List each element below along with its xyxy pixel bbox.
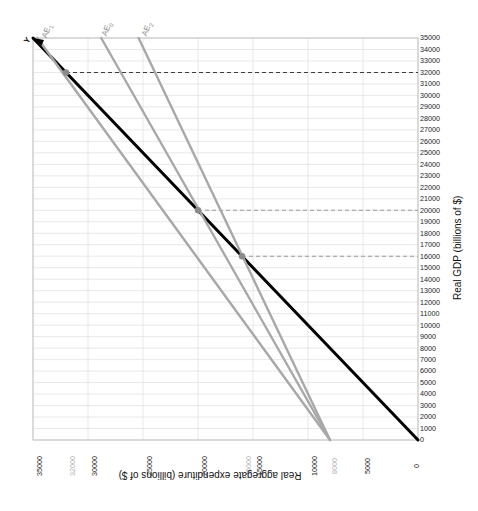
y-tick-label: 3000	[420, 402, 458, 409]
y-tick-label: 6000	[420, 367, 458, 374]
y-tick-label: 26000	[420, 138, 458, 145]
y-tick-label: 25000	[420, 149, 458, 156]
keynesian-cross-chart: 3500034000330003200031000300002900028000…	[0, 0, 478, 511]
series-line-AE1	[37, 38, 330, 440]
y-tick-label: 9000	[420, 333, 458, 340]
y-tick-label: 27000	[420, 126, 458, 133]
y-tick-label: 23000	[420, 172, 458, 179]
y-tick-label: 31000	[420, 80, 458, 87]
y-tick-label: 10000	[420, 322, 458, 329]
series-line-Y	[33, 38, 418, 440]
series-line-AE2	[139, 38, 330, 440]
y-tick-label: 1000	[420, 425, 458, 432]
equilibrium-2	[239, 253, 245, 259]
chart-canvas	[0, 0, 478, 511]
series-line-AE0	[101, 38, 330, 440]
y-tick-label: 24000	[420, 161, 458, 168]
y-tick-label: 22000	[420, 184, 458, 191]
y-tick-label: 28000	[420, 115, 458, 122]
y-tick-label: 4000	[420, 390, 458, 397]
y-tick-label: 5000	[420, 379, 458, 386]
y-tick-label: 34000	[420, 46, 458, 53]
y-tick-label: 32000	[420, 69, 458, 76]
equilibrium-1	[63, 69, 69, 75]
y-tick-label: 35000	[420, 34, 458, 41]
y-tick-label: 8000	[420, 345, 458, 352]
y-tick-label: 30000	[420, 92, 458, 99]
y-tick-label: 33000	[420, 57, 458, 64]
equilibrium-0	[195, 207, 201, 213]
x-axis-title: Real aggregate expenditure (billions of …	[0, 470, 420, 481]
y-tick-label: 2000	[420, 413, 458, 420]
x-tick-label: 0	[413, 464, 420, 468]
y-axis-title: Real GDP (billions of $)	[452, 196, 463, 300]
y-tick-label: 7000	[420, 356, 458, 363]
y-tick-label: 11000	[420, 310, 458, 317]
y-tick-label: 29000	[420, 103, 458, 110]
series-lines	[33, 38, 418, 440]
